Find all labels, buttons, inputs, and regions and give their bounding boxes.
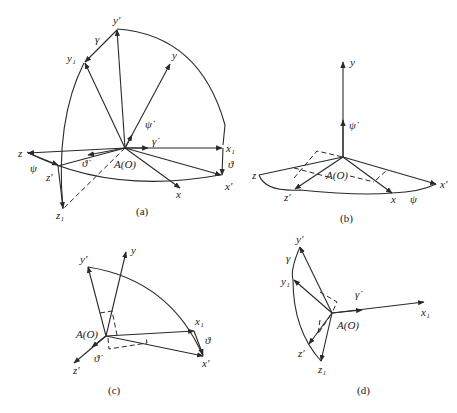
label-x-prime: x′: [224, 180, 233, 192]
label-origin: A(O): [336, 319, 359, 332]
panel-c: y′ y A(O) x₁ ϑ x′ ϑ̇ z′ (c): [72, 244, 211, 397]
label-psi-dot: ψ̇: [145, 118, 156, 130]
axis-x-prime: [106, 336, 203, 356]
axis-y-prime: [117, 30, 125, 148]
label-psi: ψ: [30, 162, 37, 174]
link-zprime-z1: [58, 166, 63, 208]
label-x1: x₁: [194, 315, 204, 327]
label-theta: ϑ: [205, 334, 211, 346]
caption-b: (b): [340, 212, 353, 225]
label-y1: y₁: [280, 275, 290, 287]
axis-y1: [294, 280, 332, 313]
label-z-prime: z′: [72, 364, 80, 376]
vec-gamma-dot: [332, 310, 362, 313]
vec-psi-dot: [125, 135, 132, 148]
arc-y1-z1: [61, 63, 84, 209]
label-y-prime: y′: [79, 253, 88, 265]
label-z: z: [17, 147, 23, 159]
arc-x1-xprime: [222, 148, 223, 175]
label-x1: x₁: [225, 142, 235, 154]
dashed-cross-3: [376, 170, 387, 180]
axis-y1: [85, 63, 125, 148]
label-x1: x₁: [420, 306, 430, 318]
label-psi: ψ: [410, 193, 417, 205]
label-y-prime: y′: [295, 233, 304, 245]
label-z-prime: z′: [45, 171, 53, 183]
panel-a: y′ γ y₁ y ψ̇ γ̇ z ψ ϑ̇ z′ A(O) x₁ ϑ x x′…: [17, 14, 235, 221]
label-origin: A(O): [325, 169, 348, 182]
arc-theta: [194, 331, 203, 355]
caption-a: (a): [136, 205, 149, 218]
axis-x-prime: [343, 157, 436, 184]
label-y: y: [171, 49, 177, 61]
label-psi-dot: ψ̇: [349, 119, 360, 131]
label-z: z: [251, 169, 257, 181]
label-y: y: [349, 56, 355, 68]
axis-y-prime: [300, 247, 332, 313]
arc-yprime-xprime: [88, 267, 203, 356]
euler-angle-figure: y′ γ y₁ y ψ̇ γ̇ z ψ ϑ̇ z′ A(O) x₁ ϑ x x′…: [0, 0, 457, 413]
label-x-prime: x′: [201, 357, 210, 369]
label-theta: ϑ: [228, 158, 234, 170]
label-z1: z₁: [317, 363, 326, 375]
arc-yprime-x1: [117, 29, 225, 145]
label-z-prime: z′: [283, 191, 291, 203]
caption-c: (c): [108, 384, 121, 397]
label-z1: z₁: [55, 209, 64, 221]
axis-x-prime: [125, 148, 221, 175]
label-origin: A(O): [75, 328, 98, 341]
label-gamma-dot: γ̇: [152, 135, 160, 147]
axis-x1: [106, 331, 194, 336]
label-y1: y₁: [66, 52, 76, 64]
label-origin: A(O): [113, 158, 136, 171]
label-theta-dot: ϑ̇: [82, 157, 91, 169]
caption-d: (d): [357, 384, 370, 397]
label-y-prime: y′: [112, 14, 121, 26]
label-x: x: [390, 193, 396, 205]
label-gamma: γ: [95, 33, 100, 45]
label-x: x: [175, 188, 181, 200]
axis-y-prime: [88, 267, 106, 336]
panel-d: y′ γ y₁ γ̇ A(O) x₁ z′ z₁ (d): [280, 233, 430, 397]
label-y: y: [130, 244, 136, 256]
label-z-prime: z′: [297, 347, 305, 359]
arc-yprime-z1: [292, 247, 321, 361]
label-gamma-dot: γ̇: [355, 288, 363, 300]
axis-x: [343, 157, 392, 193]
label-x-prime: x′: [439, 178, 448, 190]
arc-gamma: [85, 30, 117, 62]
axis-z1-dashed: [64, 148, 125, 208]
label-theta-dot: ϑ̇: [94, 352, 103, 364]
label-gamma: γ: [286, 252, 291, 264]
axis-y: [106, 252, 126, 336]
panel-b: y ψ̇ z A(O) x′ z′ x ψ (b): [251, 56, 448, 225]
